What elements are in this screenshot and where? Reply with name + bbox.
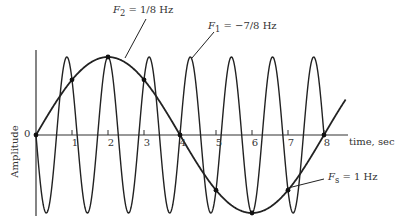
fs-symbol: F bbox=[328, 171, 335, 182]
fs-value: = 1 Hz bbox=[339, 171, 377, 182]
sample-point bbox=[142, 77, 147, 82]
y-axis-label: Amplitude bbox=[9, 122, 20, 182]
x-tick-label: 1 bbox=[72, 137, 78, 148]
x-tick-label: 3 bbox=[144, 137, 150, 148]
x-tick-label: 6 bbox=[252, 137, 258, 148]
sample-point bbox=[286, 188, 291, 193]
f1-value: = −7/8 Hz bbox=[220, 20, 276, 31]
x-tick-label: 2 bbox=[108, 137, 114, 148]
sample-point bbox=[250, 211, 255, 216]
x-tick-label: 4 bbox=[180, 137, 186, 148]
f1-pointer bbox=[192, 32, 214, 58]
x-tick-label: 8 bbox=[324, 137, 330, 148]
sample-point bbox=[34, 133, 39, 138]
f2-pointer bbox=[125, 19, 146, 58]
x-axis-label: time, sec bbox=[349, 136, 395, 147]
f2-label: F2 = 1/8 Hz bbox=[113, 4, 173, 18]
sample-point bbox=[106, 55, 111, 60]
f2-value: = 1/8 Hz bbox=[125, 4, 173, 15]
x-tick-label: 7 bbox=[288, 137, 294, 148]
zero-label: 0 bbox=[24, 128, 30, 139]
fs-label: Fs = 1 Hz bbox=[328, 171, 378, 185]
f1-symbol: F bbox=[208, 20, 215, 31]
f2-symbol: F bbox=[113, 4, 120, 15]
f1-label: F1 = −7/8 Hz bbox=[208, 20, 277, 34]
x-ticks bbox=[72, 130, 324, 135]
sample-point bbox=[70, 77, 75, 82]
sample-point bbox=[214, 188, 219, 193]
x-tick-label: 5 bbox=[216, 137, 222, 148]
